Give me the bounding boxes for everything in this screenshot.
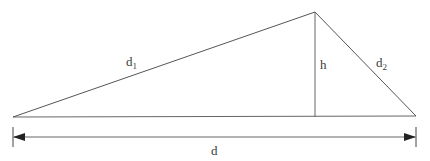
- triangle-diagram: d1 h d2 d: [0, 0, 430, 161]
- label-h: h: [320, 57, 327, 72]
- label-d2: d2: [376, 55, 387, 72]
- triangle-base-line: [13, 116, 416, 117]
- side-d2-line: [315, 12, 416, 116]
- label-d: d: [211, 143, 218, 158]
- label-d1: d1: [126, 54, 137, 71]
- side-d1-line: [13, 12, 315, 117]
